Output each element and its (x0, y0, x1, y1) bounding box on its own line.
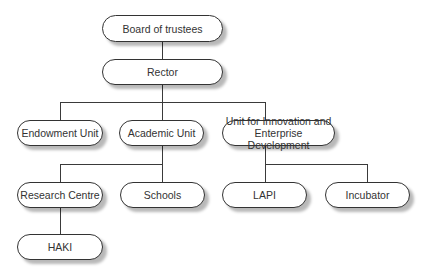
connector-to-academic (162, 102, 163, 120)
node-endowment-unit: Endowment Unit (17, 120, 103, 146)
node-research-centre: Research Centre (17, 182, 103, 208)
node-label: Research Centre (20, 189, 99, 201)
node-label-line1: Unit for Innovation and (226, 115, 332, 127)
connector-to-research (60, 164, 61, 182)
node-label: Rector (147, 66, 178, 78)
node-label: LAPI (253, 189, 276, 201)
node-schools: Schools (120, 182, 205, 208)
node-rector: Rector (102, 59, 223, 85)
node-label-line2: Enterprise Development (223, 127, 334, 151)
connector-rector-down (162, 85, 163, 102)
connector-to-schools (162, 164, 163, 182)
node-label: Academic Unit (128, 127, 196, 139)
connector-board-rector (162, 42, 163, 59)
connector-uied-children-bar (265, 164, 368, 165)
node-incubator: Incubator (325, 182, 410, 208)
node-academic-unit: Academic Unit (119, 120, 204, 146)
connector-to-lapi (265, 164, 266, 182)
connector-to-endowment (60, 102, 61, 120)
connector-research-haki (60, 208, 61, 234)
node-label: Endowment Unit (21, 127, 98, 139)
node-board-of-trustees: Board of trustees (102, 15, 223, 42)
connector-to-incubator (367, 164, 368, 182)
connector-rector-children-bar (60, 102, 266, 103)
node-uied: Unit for Innovation and Enterprise Devel… (222, 120, 335, 146)
node-label: Board of trustees (123, 23, 203, 35)
node-lapi: LAPI (222, 182, 307, 208)
connector-academic-children-bar (60, 164, 163, 165)
node-label: HAKI (48, 241, 73, 253)
node-label: Incubator (346, 189, 390, 201)
node-haki: HAKI (17, 234, 103, 260)
connector-academic-down (162, 146, 163, 164)
node-label: Schools (144, 189, 181, 201)
